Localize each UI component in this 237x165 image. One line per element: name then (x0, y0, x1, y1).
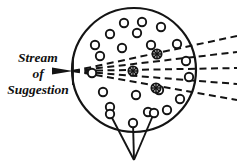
dormant-idea (163, 106, 171, 114)
activated-idea (151, 83, 160, 92)
response-stem-nodes (106, 109, 158, 127)
dormant-idea (91, 41, 99, 49)
dormant-idea (106, 30, 114, 38)
dormant-idea (157, 23, 165, 31)
stream-of-suggestion-diagram: Stream of Suggestion (0, 0, 237, 165)
dormant-idea (96, 52, 104, 60)
dormant-idea (182, 57, 190, 65)
dormant-idea (99, 88, 107, 96)
response-node (106, 110, 114, 118)
ray-4 (73, 71, 237, 84)
dormant-idea (173, 40, 181, 48)
dormant-idea (88, 69, 96, 77)
figure-root: Stream of Suggestion (0, 0, 237, 165)
dormant-idea-circles (88, 18, 193, 116)
activated-idea-spokes (152, 49, 161, 58)
caption-line-of: of (32, 66, 45, 81)
activated-idea-spokes (128, 66, 137, 75)
dormant-idea (147, 41, 155, 49)
response-stem-center (133, 123, 134, 160)
dormant-idea (118, 44, 126, 52)
dormant-idea (176, 95, 184, 103)
caption-block: Stream of Suggestion (7, 50, 69, 97)
response-node (150, 109, 158, 117)
activated-idea (128, 66, 137, 75)
activated-idea-spokes (151, 83, 160, 92)
dormant-idea (133, 29, 141, 37)
dormant-idea (185, 73, 193, 81)
dormant-idea (138, 18, 146, 26)
dormant-idea (120, 19, 128, 27)
caption-line-suggestion: Suggestion (7, 82, 69, 97)
stream-arrow-wedge (52, 67, 73, 74)
response-node (129, 119, 137, 127)
caption-line-stream: Stream (18, 50, 58, 65)
activated-idea (152, 49, 161, 58)
dormant-idea (132, 91, 140, 99)
